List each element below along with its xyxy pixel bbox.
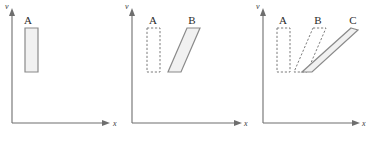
panel-2-shape-a [147, 28, 160, 72]
panel-1-x-axis [12, 120, 110, 126]
panel-3-y-axis-label: v [256, 2, 260, 11]
panel-3-shape-c-label: C [349, 14, 356, 26]
panel-1-shape-a-label: A [24, 14, 32, 26]
panel-3-x-axis-label: x [361, 119, 366, 128]
panel-1-y-axis [9, 8, 15, 123]
panel-3-shape-c [302, 28, 358, 72]
panel-3: v x A B C [248, 0, 372, 144]
panel-3-shape-a-label: A [279, 14, 287, 26]
panel-2: v x A B [124, 0, 248, 144]
panel-1: v x A [0, 0, 124, 144]
panel-2-y-axis [129, 8, 135, 123]
panel-2-y-axis-label: v [125, 2, 129, 11]
panel-2-shape-a-label: A [149, 14, 157, 26]
panel-3-x-axis [263, 120, 360, 126]
panel-2-shape-b [168, 28, 200, 72]
panel-2-x-axis [132, 120, 242, 126]
figure-root: v x A v x A B [0, 0, 372, 144]
panel-2-shape-b-label: B [188, 14, 195, 26]
panel-1-x-axis-label: x [112, 119, 117, 128]
panel-3-shape-a [277, 28, 290, 72]
panel-1-shape-a [25, 28, 38, 72]
panel-3-shape-b-label: B [314, 14, 321, 26]
panel-3-y-axis [260, 8, 266, 123]
panel-1-y-axis-label: v [5, 2, 9, 11]
